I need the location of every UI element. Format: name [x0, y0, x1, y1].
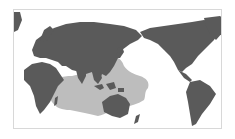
central-america-landmass: [178, 70, 192, 82]
new-zealand-landmass: [134, 114, 140, 124]
south-america-landmass: [186, 80, 216, 126]
greenland-west-landmass: [14, 12, 22, 32]
world-map: [13, 9, 222, 129]
map-canvas: [14, 10, 222, 129]
